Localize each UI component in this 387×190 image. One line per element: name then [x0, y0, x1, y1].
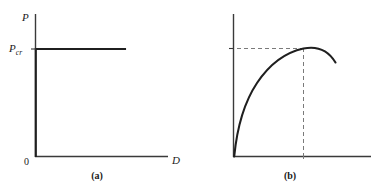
origin-label-a: 0 — [24, 157, 29, 167]
chart-panel-a: P Pcr 0 D (a) — [0, 0, 194, 190]
plot-a-svg — [0, 0, 194, 190]
axis-label-d-a: D — [172, 155, 180, 166]
axis-tick-label-pcr-a: Pcr — [9, 43, 22, 54]
axis-label-p-a: P — [22, 12, 29, 23]
data-series-b — [234, 48, 335, 157]
chart-panel-b: P Pcr 0 Dcr D (b) — [193, 0, 387, 190]
figure-root: P Pcr 0 D (a) P Pcr — [0, 0, 387, 190]
plot-b-svg — [193, 0, 387, 190]
pcr-base-a: P — [9, 42, 16, 54]
data-series-a — [36, 49, 125, 156]
panel-caption-a: (a) — [0, 171, 194, 181]
panel-caption-b: (b) — [193, 171, 387, 181]
pcr-sub-a: cr — [16, 48, 22, 57]
